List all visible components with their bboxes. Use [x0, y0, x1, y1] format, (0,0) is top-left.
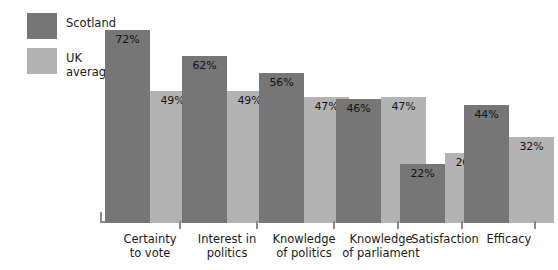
legend-swatch-uk-average: [27, 48, 57, 74]
bar-value-label: 62%: [182, 59, 227, 72]
x-axis-tick: [256, 221, 258, 229]
bar-scotland-0: 72%: [105, 30, 150, 224]
x-axis-tick: [179, 221, 181, 229]
x-axis-tick: [397, 221, 399, 229]
bar-value-label: 56%: [259, 76, 304, 89]
bar-value-label: 44%: [464, 108, 509, 121]
bar-value-label: 46%: [336, 102, 381, 115]
bar-scotland-1: 62%: [182, 56, 227, 223]
bar-scotland-2: 56%: [259, 73, 304, 224]
x-axis-tick: [333, 221, 335, 229]
legend-swatch-scotland: [27, 13, 57, 39]
bar-value-label: 22%: [400, 167, 445, 180]
x-axis-tick: [534, 221, 536, 229]
bar-scotland-5: 44%: [464, 105, 509, 223]
bar-uk-average-5: 32%: [509, 137, 554, 223]
bar-scotland-4: 22%: [400, 164, 445, 223]
bar-value-label: 32%: [509, 140, 554, 153]
x-axis-tick: [461, 221, 463, 229]
plot-area: 72% 49% 62% 49% 56% 47% 46%: [100, 8, 536, 223]
x-axis-label-5: Efficacy: [449, 232, 558, 246]
bar-scotland-3: 46%: [336, 99, 381, 223]
bar-value-label: 72%: [105, 33, 150, 46]
bar-group-5: 44% 32%: [464, 8, 554, 223]
